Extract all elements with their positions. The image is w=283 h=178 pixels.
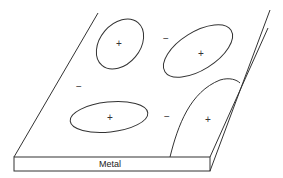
plus-sign: +	[107, 112, 113, 123]
plus-sign: +	[116, 38, 122, 49]
minus-sign: −	[163, 33, 169, 44]
plus-sign: +	[205, 114, 211, 125]
plate-left-edge	[14, 13, 98, 157]
minus-sign: −	[76, 81, 82, 92]
plate-right-side-edge	[210, 10, 270, 171]
metal-label: Metal	[99, 159, 121, 169]
minus-sign: −	[164, 111, 170, 122]
metal-plate-diagram: + + + + − − − Metal	[0, 0, 283, 178]
plus-sign: +	[198, 48, 204, 59]
